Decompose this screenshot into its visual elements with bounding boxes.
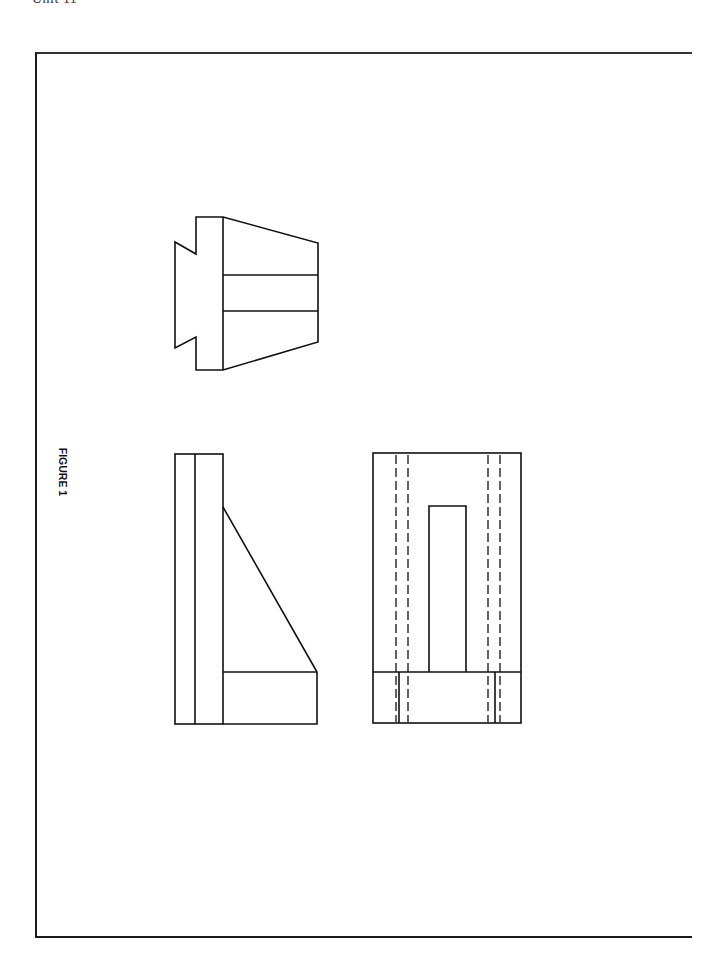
top-view [175,217,318,370]
side-view [175,454,317,724]
front-view [373,453,521,723]
technical-drawing [0,0,726,964]
